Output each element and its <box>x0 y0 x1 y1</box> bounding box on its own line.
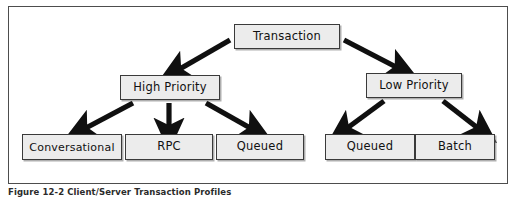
edge-low-priority-queued <box>346 101 384 129</box>
node-high-priority[interactable]: High Priority <box>120 75 220 100</box>
node-conversational[interactable]: Conversational <box>22 134 122 160</box>
edge-high-priority-queued <box>206 103 252 129</box>
node-queued-high-priority-label: Queued <box>237 141 283 153</box>
node-conversational-label: Conversational <box>29 141 114 152</box>
node-queued-low-priority-label: Queued <box>347 141 393 153</box>
edge-low-priority-batch <box>443 101 479 129</box>
figure-container: Transaction High Priority Low Priority C… <box>0 0 520 197</box>
node-low-priority[interactable]: Low Priority <box>366 73 462 98</box>
edge-transaction-low-priority <box>344 40 398 68</box>
node-queued-low-priority[interactable]: Queued <box>325 134 415 160</box>
edge-transaction-high-priority <box>178 40 230 70</box>
node-rpc-label: RPC <box>157 141 181 153</box>
node-transaction[interactable]: Transaction <box>234 24 340 49</box>
node-batch[interactable]: Batch <box>415 134 495 160</box>
node-low-priority-label: Low Priority <box>379 79 449 91</box>
node-rpc[interactable]: RPC <box>125 134 213 160</box>
node-high-priority-label: High Priority <box>133 81 207 93</box>
figure-caption: Figure 12-2 Client/Server Transaction Pr… <box>8 188 438 197</box>
node-queued-high-priority[interactable]: Queued <box>216 134 304 160</box>
edge-high-priority-conversational <box>84 103 133 129</box>
node-batch-label: Batch <box>438 141 472 153</box>
node-transaction-label: Transaction <box>253 30 321 42</box>
